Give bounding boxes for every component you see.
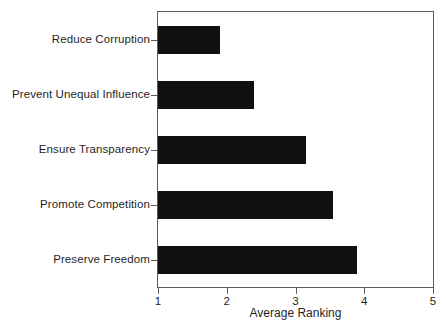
x-tick-mark [433,288,434,294]
bar-ensure-transparency [158,136,306,164]
bar-promote-competition [158,191,333,219]
x-tick-mark [296,288,297,294]
x-tick-mark [227,288,228,294]
bar-prevent-unequal-influence [158,81,254,109]
y-label-reduce-corruption: Reduce Corruption [0,33,150,45]
x-tick-mark [158,288,159,294]
y-label-prevent-unequal-influence: Prevent Unequal Influence [0,88,150,100]
bar-chart: Reduce Corruption Prevent Unequal Influe… [0,0,446,330]
y-tick-mark [151,260,157,261]
y-label-ensure-transparency: Ensure Transparency [0,143,150,155]
x-tick-mark [364,288,365,294]
y-tick-mark [151,95,157,96]
bar-reduce-corruption [158,26,220,54]
bar-preserve-freedom [158,246,357,274]
y-tick-mark [151,205,157,206]
bars-layer [158,12,433,287]
y-tick-mark [151,40,157,41]
y-label-promote-competition: Promote Competition [0,198,150,210]
y-tick-mark [151,150,157,151]
x-axis-title: Average Ranking [157,306,434,320]
y-label-preserve-freedom: Preserve Freedom [0,253,150,265]
y-axis-labels: Reduce Corruption Prevent Unequal Influe… [0,11,150,288]
